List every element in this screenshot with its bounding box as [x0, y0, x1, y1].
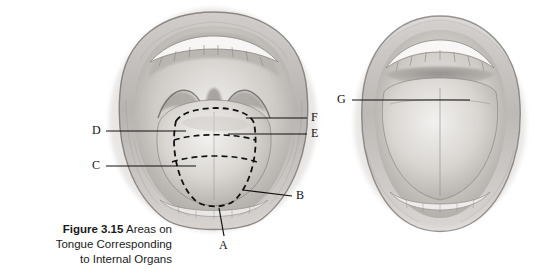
figure-caption-line1: Areas on [126, 223, 172, 235]
label-a: A [219, 238, 228, 253]
left-mouth-drawing [109, 8, 317, 232]
label-g: G [337, 92, 346, 107]
figure-number: Figure 3.15 [63, 223, 124, 235]
figure-caption-line3: to Internal Organs [80, 253, 172, 265]
figure-caption-line2: Tongue Corresponding [56, 238, 172, 250]
label-d: D [92, 123, 101, 138]
label-b: B [296, 188, 304, 203]
label-f: F [311, 110, 318, 125]
right-mouth-drawing [354, 16, 526, 232]
figure-caption: Figure 3.15 Areas on Tongue Correspondin… [2, 222, 172, 267]
figure-page: D C B A E F G Figure 3.15 Areas on Tongu… [0, 0, 553, 274]
label-e: E [311, 126, 318, 141]
label-c: C [92, 158, 100, 173]
